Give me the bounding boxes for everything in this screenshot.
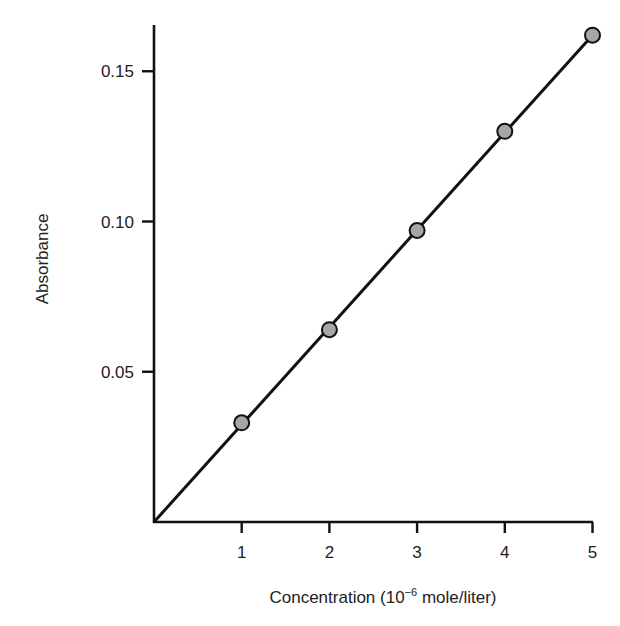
y-tick-label: 0.15 xyxy=(101,62,134,81)
x-axis-title-unit: mole/liter) xyxy=(417,588,496,607)
y-tick-label: 0.05 xyxy=(101,363,134,382)
y-tick-label: 0.10 xyxy=(101,213,134,232)
x-tick-label: 2 xyxy=(325,543,334,562)
data-point xyxy=(410,223,425,238)
data-point xyxy=(497,124,512,139)
y-ticks: 0.050.100.15 xyxy=(101,62,154,382)
x-tick-label: 5 xyxy=(588,543,597,562)
absorbance-chart: 0.050.100.15 12345 Absorbance Concentrat… xyxy=(0,0,620,626)
x-axis-title: Concentration (10−6 mole/liter) xyxy=(269,586,496,607)
data-point xyxy=(585,28,600,43)
data-point xyxy=(322,322,337,337)
y-axis-title: Absorbance xyxy=(33,214,52,305)
data-point xyxy=(234,415,249,430)
x-axis-title-exponent: −6 xyxy=(405,586,418,598)
data-series xyxy=(154,28,600,522)
x-ticks: 12345 xyxy=(237,522,597,562)
x-axis-title-main: Concentration (10 xyxy=(269,588,404,607)
x-tick-label: 1 xyxy=(237,543,246,562)
fit-line xyxy=(154,35,593,522)
x-tick-label: 4 xyxy=(500,543,509,562)
x-tick-label: 3 xyxy=(412,543,421,562)
